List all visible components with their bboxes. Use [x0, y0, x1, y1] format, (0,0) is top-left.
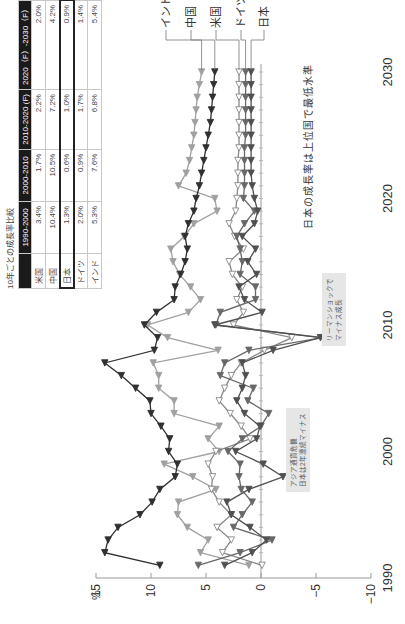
- data-point-marker: [251, 195, 257, 201]
- data-point-marker: [246, 486, 252, 492]
- data-point-marker: [193, 195, 199, 201]
- data-point-marker: [228, 372, 234, 378]
- data-point-marker: [212, 195, 218, 201]
- data-point-marker: [209, 94, 215, 100]
- data-point-marker: [192, 119, 198, 125]
- data-point-marker: [236, 132, 242, 138]
- data-point-marker: [239, 259, 245, 265]
- data-point-marker: [230, 524, 236, 530]
- data-point-marker: [235, 183, 241, 189]
- data-point-marker: [249, 183, 255, 189]
- data-point-marker: [248, 81, 254, 87]
- data-point-marker: [242, 81, 248, 87]
- data-point-marker: [226, 221, 232, 227]
- data-point-marker: [248, 107, 254, 113]
- data-point-marker: [184, 524, 190, 530]
- data-point-marker: [156, 372, 162, 378]
- y-tick-label: −10: [364, 584, 378, 605]
- data-point-marker: [237, 461, 243, 467]
- data-point-marker: [196, 183, 202, 189]
- data-point-marker: [241, 157, 247, 163]
- series-1: [102, 69, 218, 569]
- data-point-marker: [280, 474, 286, 480]
- data-point-marker: [252, 297, 258, 303]
- data-point-marker: [248, 145, 254, 151]
- data-point-marker: [242, 94, 248, 100]
- data-point-marker: [241, 145, 247, 151]
- legend-leader-line: [241, 30, 246, 70]
- data-point-marker: [241, 183, 247, 189]
- data-point-marker: [175, 499, 181, 505]
- data-point-marker: [236, 81, 242, 87]
- data-point-marker: [236, 119, 242, 125]
- legend-leader-line: [166, 30, 202, 70]
- y-unit-label: %: [90, 590, 102, 600]
- data-point-marker: [217, 309, 223, 315]
- legend-label: インド: [160, 0, 172, 28]
- y-tick-label: 5: [199, 584, 213, 591]
- data-point-marker: [211, 81, 217, 87]
- y-tick-label: 10: [144, 584, 158, 598]
- data-point-marker: [184, 246, 190, 252]
- data-point-marker: [222, 360, 228, 366]
- data-point-marker: [207, 119, 213, 125]
- rotated-chart-stage: 151050−5−10%19902000201020202030インド中国米国ド…: [0, 0, 405, 624]
- data-point-marker: [209, 474, 215, 480]
- data-point-marker: [174, 461, 180, 467]
- data-point-marker: [253, 436, 259, 442]
- data-point-marker: [242, 107, 248, 113]
- data-point-marker: [249, 550, 255, 556]
- data-point-marker: [183, 170, 189, 176]
- data-point-marker: [214, 208, 220, 214]
- data-point-marker: [252, 284, 258, 290]
- legend-leader-line: [191, 30, 215, 70]
- data-point-marker: [236, 107, 242, 113]
- data-point-marker: [171, 398, 177, 404]
- data-point-marker: [201, 157, 207, 163]
- data-point-marker: [222, 385, 228, 391]
- x-tick-label: 1990: [380, 564, 395, 593]
- data-point-marker: [239, 385, 245, 391]
- data-point-marker: [189, 145, 195, 151]
- data-point-marker: [236, 94, 242, 100]
- legend-label: 中国: [185, 6, 197, 28]
- x-tick-label: 2020: [380, 184, 395, 213]
- data-point-marker: [191, 132, 197, 138]
- data-point-marker: [248, 132, 254, 138]
- data-point-marker: [248, 157, 254, 163]
- legend-label: ドイツ: [235, 0, 247, 28]
- series-4: [212, 69, 324, 569]
- data-point-marker: [222, 562, 228, 568]
- data-point-marker: [234, 195, 240, 201]
- legend-leader-line: [216, 30, 239, 70]
- data-point-marker: [205, 132, 211, 138]
- data-point-marker: [191, 208, 197, 214]
- data-point-marker: [233, 448, 239, 454]
- data-point-marker: [170, 259, 176, 265]
- legend-leader-line: [251, 30, 264, 70]
- data-point-marker: [248, 119, 254, 125]
- data-point-marker: [193, 107, 199, 113]
- data-point-marker: [185, 309, 191, 315]
- data-point-marker: [234, 398, 240, 404]
- data-point-marker: [205, 537, 211, 543]
- x-tick-label: 2010: [380, 311, 395, 340]
- data-point-marker: [245, 398, 251, 404]
- y-tick-label: 0: [254, 584, 268, 591]
- data-point-marker: [241, 221, 247, 227]
- data-point-marker: [236, 474, 242, 480]
- data-point-marker: [248, 170, 254, 176]
- data-point-marker: [235, 170, 241, 176]
- data-point-marker: [198, 170, 204, 176]
- data-point-marker: [234, 297, 240, 303]
- data-point-marker: [248, 94, 254, 100]
- data-point-marker: [167, 436, 173, 442]
- x-tick-label: 2000: [380, 437, 395, 466]
- data-point-marker: [105, 537, 111, 543]
- data-point-marker: [182, 259, 188, 265]
- data-point-marker: [185, 221, 191, 227]
- data-point-marker: [236, 145, 242, 151]
- data-point-marker: [242, 372, 248, 378]
- data-point-marker: [235, 157, 241, 163]
- data-point-marker: [241, 170, 247, 176]
